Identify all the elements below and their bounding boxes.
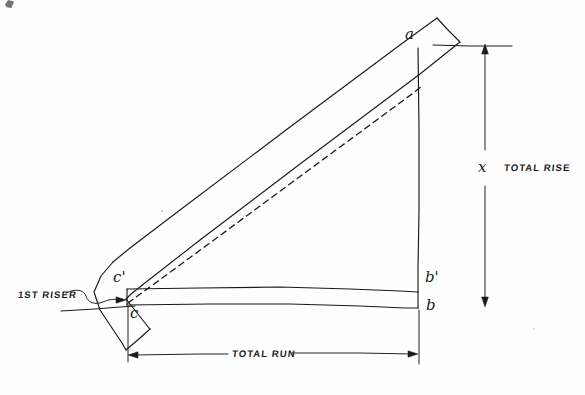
stringer-board (94, 18, 460, 350)
board-lower-edge (126, 42, 460, 299)
total-run-dim-line-left (134, 354, 228, 355)
total-run-arrow-right (408, 351, 418, 357)
label-point-b: b (426, 298, 436, 313)
label-total-run: TOTAL RUN (232, 349, 297, 359)
total-run-dim-line-right (292, 353, 412, 354)
paper-speck (161, 210, 163, 212)
lower-datum-line (61, 306, 135, 311)
label-point-a: a (405, 27, 414, 42)
board-bottom-cut-return (126, 329, 150, 350)
center-dash-line (128, 86, 422, 303)
label-point-c-prime: c' (113, 270, 126, 285)
total-run-arrow-left (128, 352, 138, 358)
label-first-riser: 1ST RISER (18, 290, 78, 300)
label-rise-variable: x (478, 160, 486, 175)
board-top-cut (437, 18, 460, 42)
riser-band (127, 287, 418, 308)
riser-band-bottom-edge (127, 304, 418, 308)
rise-leg-line (418, 48, 419, 292)
label-total-rise: TOTAL RISE (504, 163, 571, 173)
riser-band-top-edge (127, 287, 418, 292)
total-rise-arrow-down (482, 297, 489, 307)
board-upper-edge (113, 18, 437, 262)
label-point-c: c (130, 306, 138, 321)
sketch-page: a b' b c' c x TOTAL RISE TOTAL RUN 1ST R… (0, 0, 585, 395)
paper-speck-2 (533, 328, 535, 330)
stair-stringer-diagram (0, 0, 585, 395)
upper-datum-line (433, 45, 512, 46)
first-riser-leader-arrow (116, 297, 126, 303)
label-point-b-prime: b' (425, 270, 439, 285)
